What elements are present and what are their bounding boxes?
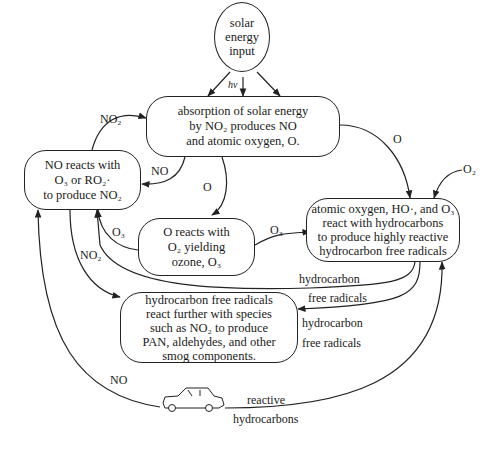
- node-absorption: absorption of solar energy by NO₂ produc…: [146, 96, 340, 157]
- node-text: hydrocarbon free radicals: [145, 293, 273, 307]
- node-text: PAN, aldehydes, and other: [142, 335, 275, 349]
- node-text: ozone, O₃: [172, 255, 221, 270]
- label-reactive-b: hydrocarbons: [233, 413, 298, 426]
- label-o3-left: O₃: [112, 226, 125, 239]
- label-o2-in: O₂: [463, 163, 476, 176]
- node-text: such as NO₂ to produce: [150, 321, 268, 335]
- node-o-reacts: O reacts with O₂ yielding ozone, O₃: [138, 218, 255, 276]
- node-text: by NO₂ produces NO: [189, 119, 296, 134]
- node-text: hydrocarbon free radicals: [319, 244, 447, 258]
- node-text: react with hydrocarbons: [323, 216, 444, 230]
- label-no2-top: NO₂: [100, 113, 122, 126]
- node-text: atomic oxygen, HO·, and O₃: [311, 202, 454, 216]
- node-text: O reacts with: [163, 225, 230, 240]
- node-text: input: [229, 44, 255, 58]
- car-icon: [163, 388, 224, 412]
- node-no-reacts: NO reacts with O₃ or RO₂· to produce NO₂: [24, 150, 141, 210]
- label-hc1-a: hydrocarbon: [299, 273, 360, 286]
- label-o-down: O: [203, 181, 212, 194]
- node-text: O₃ or RO₂·: [55, 173, 111, 188]
- label-hc1-b: free radicals: [308, 292, 367, 305]
- label-o-right: O: [393, 133, 402, 146]
- label-no2-down: NO₂: [80, 249, 102, 262]
- node-text: react further with species: [146, 307, 272, 321]
- node-text: NO reacts with: [45, 158, 121, 173]
- label-reactive-a: reactive: [247, 394, 285, 407]
- node-text: O₂ yielding: [168, 240, 225, 255]
- node-hydrocarbon-radicals: hydrocarbon free radicals react further …: [120, 292, 298, 363]
- node-atomic-oxygen: atomic oxygen, HO·, and O₃ react with hy…: [306, 198, 460, 262]
- node-solar-energy-input: solar energy input: [214, 2, 270, 72]
- label-hv: hν: [228, 78, 237, 91]
- node-text: solar: [230, 16, 254, 30]
- node-text: absorption of solar energy: [178, 104, 309, 119]
- node-text: smog components.: [162, 349, 256, 363]
- label-hc2-a: hydrocarbon: [302, 317, 363, 330]
- label-o3-right: O₃: [270, 224, 283, 237]
- node-text: to produce NO₂: [43, 188, 122, 203]
- node-text: to produce highly reactive: [318, 230, 449, 244]
- label-no-mid: NO: [151, 165, 168, 178]
- label-hc2-b: free radicals: [302, 337, 361, 350]
- node-text: and atomic oxygen, O.: [186, 134, 300, 149]
- node-text: energy: [225, 30, 259, 44]
- label-no-car: NO: [110, 374, 127, 387]
